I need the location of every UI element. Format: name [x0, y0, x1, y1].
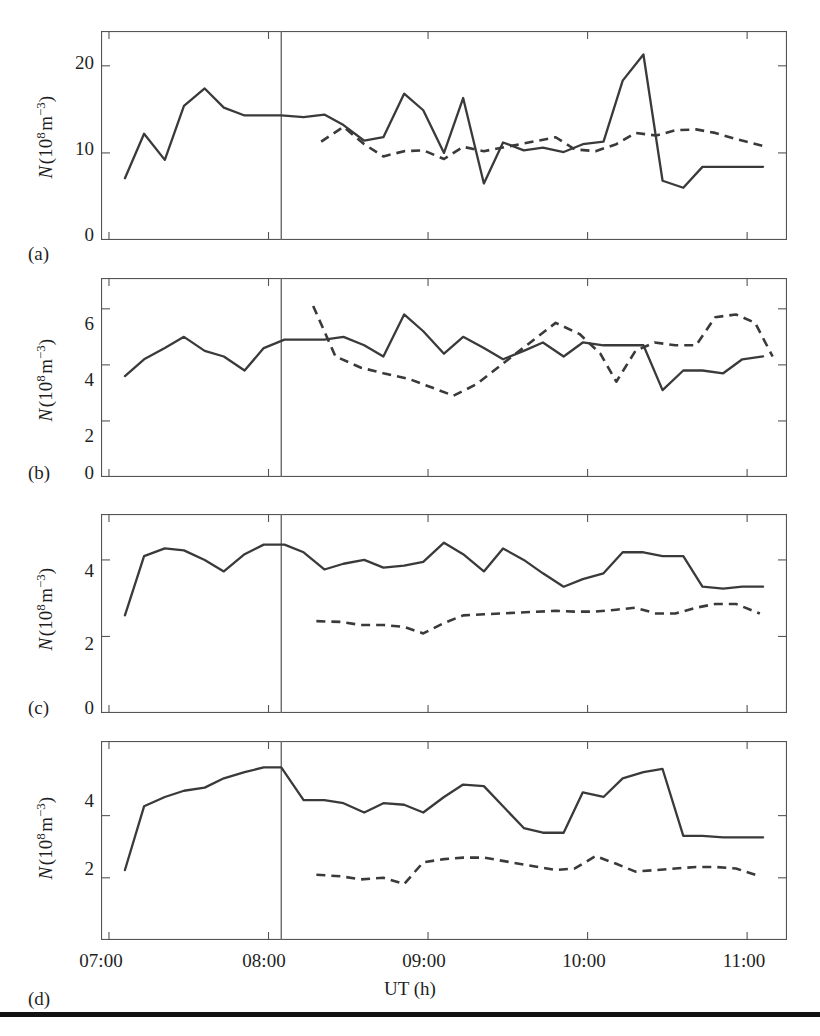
- panel-b-ytick-4: 4: [60, 369, 94, 391]
- panel-a-plot: [101, 31, 787, 240]
- panel-a-ytick-10: 10: [60, 138, 94, 160]
- xtick-label-1000: 10:00: [544, 950, 624, 972]
- panel-a-ytick-0: 0: [60, 224, 94, 246]
- panel-d-ytick-4: 4: [60, 790, 94, 812]
- panel-caption-b: (b): [28, 462, 50, 484]
- panel-c-ytick-2: 2: [60, 633, 94, 655]
- bottom-divider-rule: [0, 1012, 820, 1017]
- panel-c-ytick-0: 0: [60, 697, 94, 719]
- xtick-label-1100: 11:00: [704, 950, 784, 972]
- panel-b-ytick-6: 6: [60, 313, 94, 335]
- xtick-label-0900: 09:00: [384, 950, 464, 972]
- panel-caption-a: (a): [28, 243, 49, 265]
- figure-container: N (108 m−3) 20 10 0 (a) N (108 m−3) 6 4 …: [0, 0, 820, 1036]
- panel-c-plot: [101, 514, 787, 713]
- xtick-label-0800: 08:00: [224, 950, 304, 972]
- panel-d-plot: [101, 741, 787, 940]
- panel-d-ylabel: N (108 m−3): [33, 753, 57, 923]
- x-axis-title: UT (h): [0, 978, 820, 1000]
- panel-c-ylabel: N (108 m−3): [33, 524, 57, 694]
- panel-b-ytick-0: 0: [60, 462, 94, 484]
- panel-d-ytick-2: 2: [60, 858, 94, 880]
- panel-caption-c: (c): [28, 697, 49, 719]
- panel-c-ytick-4: 4: [60, 560, 94, 582]
- panel-a-ylabel: N (108 m−3): [33, 52, 57, 222]
- xtick-label-0700: 07:00: [61, 950, 141, 972]
- panel-b-ylabel: N (108 m−3): [33, 295, 57, 465]
- panel-a-ytick-20: 20: [60, 52, 94, 74]
- panel-b-ytick-2: 2: [60, 425, 94, 447]
- panel-b-plot: [101, 278, 787, 477]
